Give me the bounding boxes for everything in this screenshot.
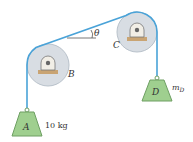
- label-block-d: D: [151, 87, 159, 97]
- angle-arc-icon: [91, 30, 93, 38]
- label-block-d-mass: mD: [172, 83, 185, 93]
- label-angle-theta: θ: [94, 28, 100, 38]
- label-block-a: A: [22, 122, 30, 132]
- label-block-a-mass: 10 kg: [45, 121, 68, 130]
- pulley-diagram: B C θ A 10 kg D mD: [0, 0, 193, 142]
- label-pulley-b: B: [67, 69, 75, 79]
- label-pulley-c: C: [113, 40, 120, 50]
